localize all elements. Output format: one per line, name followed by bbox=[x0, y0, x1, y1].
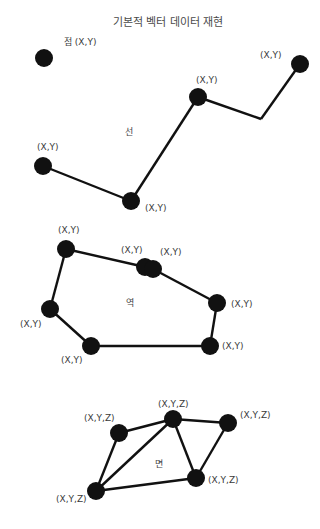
tin-vertex-node bbox=[110, 424, 128, 442]
tin-vertex-node bbox=[219, 414, 237, 432]
line-segment bbox=[198, 97, 261, 119]
line-vertex-node bbox=[291, 55, 309, 73]
polygon-vertex-node bbox=[57, 240, 75, 258]
line-node-label: (X,Y) bbox=[37, 143, 59, 152]
polygon-node-label: (X,Y) bbox=[61, 356, 83, 365]
tin-edge bbox=[96, 478, 196, 491]
line-node-label: (X,Y) bbox=[260, 51, 282, 60]
line-segment bbox=[131, 97, 198, 201]
polygon-edge bbox=[50, 249, 66, 309]
polygon-edge bbox=[153, 269, 217, 303]
line-node-label: (X,Y) bbox=[196, 76, 218, 85]
polygon-node-label: (X,Y) bbox=[20, 320, 42, 329]
point-section-label: 점 (X,Y) bbox=[64, 38, 96, 47]
tin-vertex-node bbox=[87, 482, 105, 500]
line-segment bbox=[43, 166, 131, 201]
point-node bbox=[35, 49, 53, 67]
polygon-node-label: (X,Y) bbox=[121, 246, 143, 255]
tin-vertex-node bbox=[187, 469, 205, 487]
polygon-section-label: 역 bbox=[126, 296, 134, 309]
tin-node-label: (X,Y,Z) bbox=[240, 411, 271, 420]
line-vertex-node bbox=[189, 88, 207, 106]
polygon-vertex-node bbox=[201, 337, 219, 355]
polygon-node-label: (X,Y) bbox=[58, 226, 80, 235]
polygon-node-label: (X,Y) bbox=[222, 342, 244, 351]
line-vertex-node bbox=[34, 157, 52, 175]
tin-node-label: (X,Y,Z) bbox=[84, 414, 115, 423]
tin-edge bbox=[173, 419, 196, 478]
tin-section-label: 면 bbox=[155, 457, 163, 470]
polygon-vertex-node bbox=[208, 294, 226, 312]
polygon-vertex-node bbox=[41, 300, 59, 318]
diagram-graphics bbox=[0, 0, 320, 529]
tin-edge bbox=[96, 433, 119, 491]
tin-edge bbox=[196, 423, 228, 478]
line-segment bbox=[261, 64, 300, 119]
line-vertex-node bbox=[122, 192, 140, 210]
tin-node-label: (X,Y,Z) bbox=[158, 400, 189, 409]
polygon-vertex-node bbox=[82, 337, 100, 355]
tin-vertex-node bbox=[164, 410, 182, 428]
line-node-label: (X,Y) bbox=[145, 204, 167, 213]
vector-data-diagram: 기본적 벡터 데이터 재현 점 (X,Y) 선 역 면 (X,Y) (X,Y) … bbox=[0, 0, 320, 529]
polygon-vertex-node bbox=[144, 260, 162, 278]
polygon-node-label: (X,Y) bbox=[231, 300, 253, 309]
line-section-label: 선 bbox=[125, 125, 133, 138]
tin-node-label: (X,Y,Z) bbox=[208, 476, 239, 485]
polygon-node-label: (X,Y) bbox=[160, 248, 182, 257]
tin-node-label: (X,Y,Z) bbox=[56, 495, 87, 504]
